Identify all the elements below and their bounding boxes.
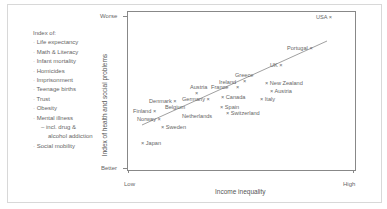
data-point-label: ×	[243, 78, 246, 84]
data-point-label: × Canada	[221, 94, 245, 100]
data-point-label: Germany ×	[182, 96, 210, 102]
data-point-label: × Italy	[260, 96, 275, 102]
data-point-label: × New Zealand	[265, 80, 303, 86]
data-point-label: ×	[236, 84, 239, 90]
data-point-label: Belgium	[165, 104, 185, 110]
data-point-label: France	[211, 84, 228, 90]
data-point-label: Netherlands	[182, 113, 212, 119]
data-point-label: UK ×	[270, 62, 283, 68]
data-point-label: USA ×	[316, 14, 332, 20]
trend-line	[0, 0, 387, 209]
data-point-label: Portugal ×	[287, 45, 313, 51]
data-point-label: Austria	[190, 84, 207, 90]
data-point-label: × Austria	[270, 88, 292, 94]
data-point-label: × Switzerland	[226, 110, 260, 116]
data-point-label: × Japan	[141, 140, 161, 146]
data-point-label: × Sweden	[161, 124, 186, 130]
data-point-label: Norway ×	[137, 116, 161, 122]
data-point-label: Finland ×	[133, 108, 156, 114]
